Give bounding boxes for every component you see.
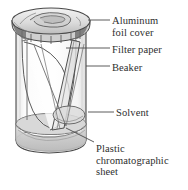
label-plastic-chromatographic-sheet: Plastic chromatographic sheet bbox=[96, 143, 169, 178]
label-solvent: Solvent bbox=[116, 107, 149, 119]
label-aluminum-foil-cover: Aluminum foil cover bbox=[112, 15, 158, 38]
chromatography-figure: Aluminum foil cover Filter paper Beaker … bbox=[0, 0, 188, 190]
label-beaker: Beaker bbox=[112, 62, 142, 74]
label-filter-paper: Filter paper bbox=[112, 44, 162, 56]
